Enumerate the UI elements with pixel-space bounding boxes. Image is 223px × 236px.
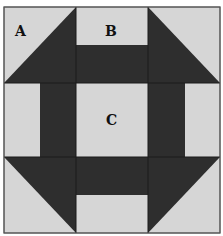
quilt-block-diagram: A B C	[0, 0, 223, 236]
strip-bottom-dark	[76, 157, 148, 195]
label-a: A	[14, 23, 27, 39]
label-c: C	[106, 112, 117, 128]
strip-left-dark	[40, 83, 76, 157]
strip-right-dark	[148, 83, 185, 157]
strip-top-dark	[76, 45, 148, 83]
label-b: B	[105, 23, 117, 39]
